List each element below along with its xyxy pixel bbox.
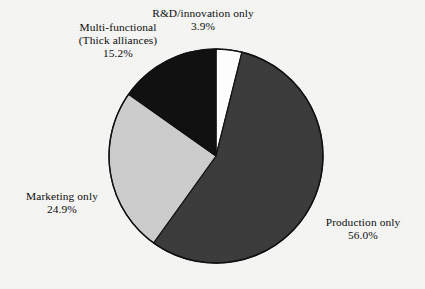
slice-label-text-second-line: (Thick alliances) (79, 34, 158, 47)
pie-chart-svg (0, 0, 425, 289)
slice-label-percent: 15.2% (79, 47, 158, 60)
slice-label-text: Marketing only (26, 190, 98, 203)
slice-label-marketing-only: Marketing only 24.9% (26, 190, 98, 216)
slice-label-percent: 3.9% (152, 20, 254, 33)
slice-label-text: Production only (326, 216, 401, 229)
slice-label-rd-innovation-only: R&D/innovation only 3.9% (152, 7, 254, 33)
slice-label-text: R&D/innovation only (152, 7, 254, 20)
slice-label-production-only: Production only 56.0% (326, 216, 401, 242)
slice-label-percent: 56.0% (326, 229, 401, 242)
slice-label-multi-functional: Multi-functional (Thick alliances) 15.2% (79, 21, 158, 60)
slice-label-percent: 24.9% (26, 203, 98, 216)
pie-chart-figure: R&D/innovation only 3.9% Multi-functiona… (0, 0, 425, 289)
pie-slices-group (109, 49, 323, 263)
slice-label-text: Multi-functional (79, 21, 158, 34)
